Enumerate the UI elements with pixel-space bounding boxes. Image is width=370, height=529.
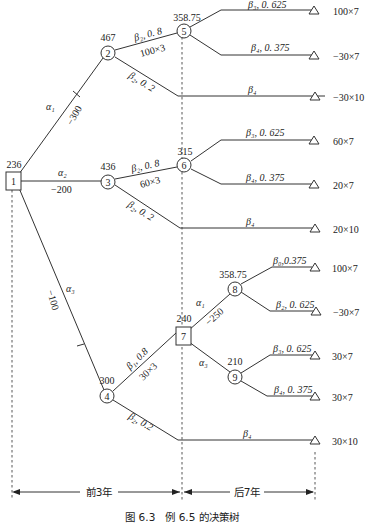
edge-n8-down-label: β₂, 0. 625 — [275, 299, 314, 310]
edge-n6-up-label: β₃, 0. 625 — [245, 127, 284, 138]
node-9: 9 210 — [228, 356, 243, 384]
edge-n7-a3-label: α₃ — [199, 357, 208, 368]
svg-text:467: 467 — [101, 32, 116, 43]
svg-text:8: 8 — [233, 284, 238, 295]
edge-n4-down-label: β₂, 0.2 — [126, 410, 155, 433]
edge-tick — [77, 344, 84, 346]
svg-text:5: 5 — [182, 26, 187, 37]
edge-n7-a1-cost: −250 — [203, 306, 226, 328]
edge-a1 — [19, 58, 103, 174]
svg-text:436: 436 — [101, 161, 116, 172]
node-1: 1 236 — [6, 159, 22, 190]
edge-a2-label: α₂ — [58, 167, 67, 178]
edge-n6-down-label: β₄, 0. 375 — [245, 172, 284, 183]
node-6: 6 315 — [177, 146, 193, 172]
edge-a3-label: α₃ — [66, 283, 75, 294]
edge-n2-up-label: β₂, 0. 8 — [132, 25, 163, 43]
edge-n3-up-sub: 60×3 — [139, 174, 162, 190]
timeline-left-label: 前3年 — [86, 486, 113, 498]
node-3: 3 436 — [101, 161, 116, 189]
decision-tree-diagram: 1 236 2 467 3 436 4 300 5 358.75 6 315 7… — [0, 0, 370, 529]
svg-text:210: 210 — [228, 356, 243, 367]
svg-text:60×7: 60×7 — [333, 136, 354, 147]
svg-text:20×10: 20×10 — [333, 224, 359, 235]
payoff-labels: 100×7 −30×7 −30×10 60×7 20×7 20×10 100×7… — [332, 6, 364, 447]
svg-text:4: 4 — [105, 391, 110, 402]
edge-a2-cost: −200 — [51, 184, 72, 195]
edge-n2-up-sub: 100×3 — [139, 42, 167, 59]
edge-n4-up-sub: 30×3 — [137, 360, 159, 382]
svg-text:7: 7 — [181, 331, 186, 342]
svg-text:−30×7: −30×7 — [333, 307, 359, 318]
terminal-triangles — [309, 6, 321, 444]
svg-text:300: 300 — [100, 375, 115, 386]
svg-text:−30×7: −30×7 — [333, 51, 359, 62]
svg-text:358.75: 358.75 — [173, 12, 201, 23]
node-7: 7 240 — [176, 313, 192, 345]
svg-text:30×7: 30×7 — [332, 392, 353, 403]
svg-text:9: 9 — [233, 372, 238, 383]
svg-text:30×10: 30×10 — [332, 436, 358, 447]
node-4: 4 300 — [100, 375, 115, 403]
svg-text:240: 240 — [177, 313, 192, 324]
edge-a1-label: α₁ — [46, 101, 55, 112]
svg-text:−30×10: −30×10 — [333, 92, 364, 103]
edge-a3 — [19, 188, 104, 390]
edge-n6-up — [191, 140, 312, 161]
svg-text:315: 315 — [178, 146, 193, 157]
edge-n4-long-label: β₄ — [242, 428, 252, 439]
edge-n2-down-label: β₂, 0. 2 — [126, 69, 157, 94]
edge-n9-up-label: β₃, 0. 625 — [272, 343, 311, 354]
edge-a3-cost: −100 — [45, 289, 61, 312]
timeline-right-label: 后7年 — [234, 486, 261, 498]
edge-n7-a1-label: α₁ — [196, 297, 205, 308]
edge-n2-long-label: β₄ — [247, 84, 257, 95]
node-2: 2 467 — [101, 32, 116, 60]
svg-text:100×7: 100×7 — [332, 263, 358, 274]
svg-text:20×7: 20×7 — [333, 180, 354, 191]
svg-text:6: 6 — [182, 160, 187, 171]
edge-n3-long-label: β₄ — [245, 216, 255, 227]
node-8: 8 358.75 — [219, 269, 247, 296]
edge-n5-up-label: β₃, 0. 625 — [247, 0, 286, 10]
edge-n5-down-label: β₄, 0. 375 — [250, 42, 289, 53]
edge-n7-a3 — [189, 342, 230, 372]
edge-n8-up-label: β₀,0.375 — [272, 255, 306, 266]
timeline: 前3年 后7年 — [12, 486, 314, 498]
edge-n9-up — [241, 355, 313, 373]
edge-n9-down-label: β₄, 0. 375 — [273, 384, 312, 395]
svg-text:3: 3 — [106, 177, 111, 188]
svg-text:2: 2 — [106, 48, 111, 59]
figure-caption: 图 6.3 例 6.5 的决策树 — [125, 511, 239, 523]
svg-text:236: 236 — [7, 159, 22, 170]
svg-text:30×7: 30×7 — [332, 351, 353, 362]
node-5: 5 358.75 — [173, 12, 201, 38]
edge-n5-up — [190, 10, 312, 27]
svg-text:100×7: 100×7 — [333, 6, 359, 17]
svg-text:358.75: 358.75 — [219, 269, 247, 280]
svg-text:1: 1 — [11, 176, 16, 187]
edge-n8-up — [241, 267, 312, 284]
